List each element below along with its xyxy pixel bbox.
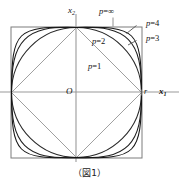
curve-label-p-3: p=3 <box>146 34 159 43</box>
curve-label-p-4: p=4 <box>146 19 159 28</box>
axis-label-x2-sub: 2 <box>72 10 75 16</box>
radius-tick-label-text: r <box>144 87 147 96</box>
curve-label-p-infinity-value: ∞ <box>108 6 114 16</box>
figure-lp-unit-balls: x2 x1 O r p=∞ p=4 p=3 p=2 p=1 （図1） <box>0 0 179 182</box>
curve-label-p-1: p=1 <box>88 62 101 71</box>
figure-caption: （図1） <box>0 166 179 179</box>
origin-label: O <box>66 87 73 96</box>
axis-label-x2: x2 <box>68 6 75 16</box>
curve-label-p-2-value: 2 <box>101 36 105 46</box>
axis-label-x1-sub: 1 <box>164 91 167 97</box>
curve-label-p-infinity: p=∞ <box>99 7 114 16</box>
axis-label-x1: x1 <box>159 87 167 97</box>
figure-caption-text: （図1） <box>73 168 106 178</box>
curve-label-p-2: p=2 <box>92 37 105 46</box>
curve-label-p-3-value: 3 <box>155 33 159 43</box>
radius-tick-label: r <box>144 88 147 96</box>
curve-label-p-1-value: 1 <box>97 61 101 71</box>
origin-label-text: O <box>66 86 73 96</box>
curve-label-p-4-value: 4 <box>155 18 159 28</box>
